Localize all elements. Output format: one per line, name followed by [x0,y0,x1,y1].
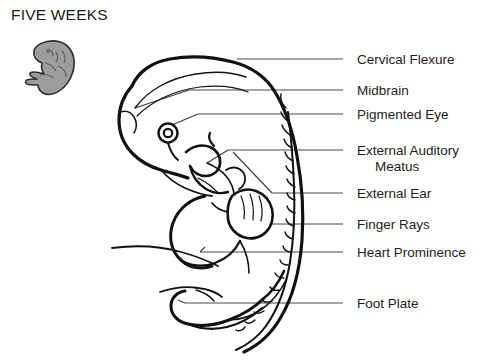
foot-plate-shape [171,291,263,325]
hook-external-ear [233,152,272,193]
eye-stalk-line [168,143,178,160]
label-external-auditory-meatus-text-line2: Meatus [357,159,459,175]
label-external-ear-text: External Ear [357,186,431,201]
hand-plate-shape [228,190,273,239]
embryo-mandibular-arch [190,166,228,193]
label-finger-rays[interactable]: Finger Rays [357,217,430,233]
embryo-ventral-body-wall [240,241,249,273]
pigmented-eye-shape [159,124,178,143]
label-pigmented-eye-text: Pigmented Eye [357,107,449,122]
hook-heart-prominence [200,247,205,252]
foot-plate-upper-contour [160,287,222,297]
label-foot-plate[interactable]: Foot Plate [357,296,419,312]
embryo-figure-page: FIVE WEEKS [0,0,503,363]
label-finger-rays-text: Finger Rays [357,217,430,232]
label-pigmented-eye[interactable]: Pigmented Eye [357,107,449,123]
label-midbrain[interactable]: Midbrain [357,83,409,99]
embryo-body-outline [112,57,303,352]
label-heart-prominence[interactable]: Heart Prominence [357,245,466,261]
label-external-auditory-meatus[interactable]: External Auditory Meatus [357,143,459,175]
external-ear-shape [226,168,245,189]
five-week-embryo-thumbnail-icon [26,41,75,95]
label-heart-prominence-text: Heart Prominence [357,245,466,260]
label-midbrain-text: Midbrain [357,83,409,98]
label-foot-plate-text: Foot Plate [357,296,419,311]
hook-foot-plate [178,300,185,303]
embryo-frontal-notch [120,111,136,133]
label-cervical-flexure-text: Cervical Flexure [357,52,455,67]
label-external-auditory-meatus-text: External Auditory [357,143,459,158]
label-cervical-flexure[interactable]: Cervical Flexure [357,52,455,68]
embryo-tail-tip [229,280,286,320]
label-external-ear[interactable]: External Ear [357,186,431,202]
external-auditory-meatus-shape [209,133,214,146]
hand-plate-wrist [212,203,228,212]
heart-prominence-shape [171,196,212,268]
